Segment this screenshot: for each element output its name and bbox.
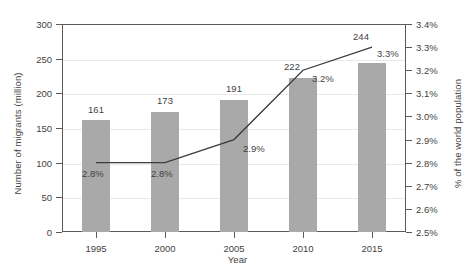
x-tick-label: 1995 [66, 243, 126, 254]
x-tick-label: 2015 [342, 243, 402, 254]
bar-2005 [220, 100, 248, 232]
y-tick-label-left: 50 [4, 192, 52, 203]
x-tick-label: 2010 [273, 243, 333, 254]
y-tick-right [406, 24, 412, 25]
y-tick-label-right: 2.6% [416, 204, 464, 215]
y-tick-right [406, 70, 412, 71]
bar-2010 [289, 78, 317, 232]
bar-2015 [358, 63, 386, 232]
bar-value-label: 222 [262, 61, 322, 72]
y-tick-right [406, 209, 412, 210]
y-tick-label-left: 200 [4, 88, 52, 99]
y-tick-right [406, 186, 412, 187]
y-tick-left [56, 128, 62, 129]
x-tick-label: 2000 [135, 243, 195, 254]
y-tick-right [406, 93, 412, 94]
y-tick-left [56, 163, 62, 164]
y-tick-label-right: 2.8% [416, 158, 464, 169]
y-tick-label-right: 3.0% [416, 111, 464, 122]
percentage-value-label: 3.2% [312, 73, 362, 84]
y-tick-label-right: 3.1% [416, 88, 464, 99]
y-tick-label-right: 3.4% [416, 19, 464, 30]
bar-value-label: 244 [331, 31, 391, 42]
x-tick-label: 2005 [204, 243, 264, 254]
y-tick-left [56, 24, 62, 25]
y-tick-label-right: 2.5% [416, 227, 464, 238]
gridline [63, 94, 405, 95]
x-tick [234, 232, 235, 238]
y-tick-left [56, 59, 62, 60]
percentage-value-label: 2.9% [243, 143, 293, 154]
y-tick-label-left: 150 [4, 123, 52, 134]
x-tick [303, 232, 304, 238]
y-tick-label-left: 0 [4, 227, 52, 238]
y-tick-right [406, 232, 412, 233]
y-tick-right [406, 116, 412, 117]
y-tick-left [56, 197, 62, 198]
gridline [63, 60, 405, 61]
y-tick-right [406, 140, 412, 141]
y-tick-label-right: 3.2% [416, 65, 464, 76]
bar-value-label: 191 [204, 83, 264, 94]
chart-container: Number of migrants (million) % of the wo… [0, 0, 475, 275]
percentage-value-label: 2.8% [151, 168, 201, 179]
x-tick [165, 232, 166, 238]
bar-value-label: 173 [135, 95, 195, 106]
y-tick-label-left: 250 [4, 54, 52, 65]
y-tick-label-right: 2.9% [416, 135, 464, 146]
y-tick-left [56, 93, 62, 94]
percentage-value-label: 2.8% [82, 168, 132, 179]
y-tick-label-left: 300 [4, 19, 52, 30]
y-tick-label-right: 2.7% [416, 181, 464, 192]
y-tick-label-left: 100 [4, 158, 52, 169]
y-tick-right [406, 163, 412, 164]
bar-value-label: 161 [66, 104, 126, 115]
percentage-value-label: 3.3% [377, 48, 427, 59]
x-tick [96, 232, 97, 238]
x-axis-title: Year [0, 254, 475, 265]
y-tick-left [56, 232, 62, 233]
x-tick [372, 232, 373, 238]
